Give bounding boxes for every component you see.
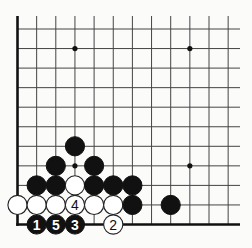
white-stone-4: 4 (65, 195, 84, 214)
stone-disc (123, 176, 142, 195)
move-number: 1 (33, 217, 41, 233)
black-stone (123, 176, 142, 195)
white-stone (27, 195, 46, 214)
black-stone (104, 176, 123, 195)
black-stone (46, 176, 65, 195)
stone-disc (8, 195, 27, 214)
white-stone (46, 195, 65, 214)
black-stone (85, 156, 104, 175)
stone-disc (104, 195, 123, 214)
stone-disc (65, 176, 84, 195)
black-stone (161, 195, 180, 214)
star-point (187, 46, 192, 51)
move-number: 2 (109, 217, 117, 233)
stone-disc (65, 137, 84, 156)
stone-disc (46, 176, 65, 195)
black-stone-3: 3 (65, 215, 84, 234)
stone-disc (27, 176, 46, 195)
stone-disc (85, 156, 104, 175)
black-stone (123, 195, 142, 214)
black-stone (27, 176, 46, 195)
stone-disc (46, 195, 65, 214)
move-number: 5 (52, 217, 60, 233)
stone-disc (104, 176, 123, 195)
black-stone (46, 156, 65, 175)
stone-disc (46, 156, 65, 175)
black-stone-5: 5 (46, 215, 65, 234)
black-stone (85, 176, 104, 195)
stone-disc (85, 176, 104, 195)
stone-disc (27, 195, 46, 214)
white-stone (85, 195, 104, 214)
white-stone-2: 2 (104, 215, 123, 234)
move-number: 4 (71, 197, 79, 213)
star-point (72, 46, 77, 51)
black-stone-1: 1 (27, 215, 46, 234)
star-point (187, 163, 192, 168)
stone-disc (85, 195, 104, 214)
black-stone (65, 137, 84, 156)
move-number: 3 (71, 217, 79, 233)
stone-disc (161, 195, 180, 214)
white-stone (65, 176, 84, 195)
white-stone (104, 195, 123, 214)
go-board: 41532 (0, 0, 252, 248)
stone-disc (123, 195, 142, 214)
white-stone (8, 195, 27, 214)
star-point (72, 163, 77, 168)
